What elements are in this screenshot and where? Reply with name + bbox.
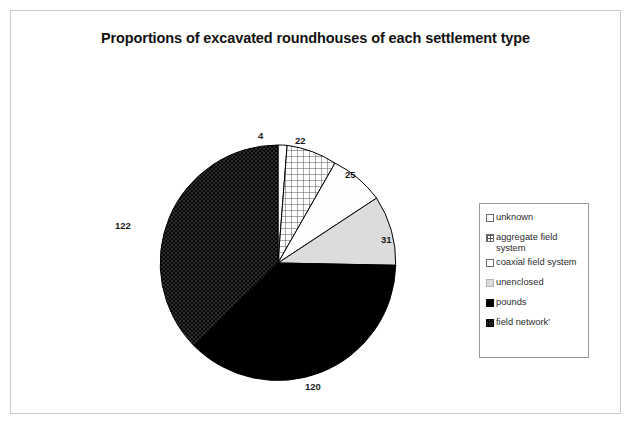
legend-label-field-network: field network' — [496, 317, 550, 328]
textured-black-square-icon — [486, 319, 494, 327]
legend-item-coaxial-field-system: coaxial field system — [486, 257, 584, 268]
pie-svg — [159, 144, 397, 382]
legend-label-coaxial-field-system: coaxial field system — [496, 257, 577, 268]
legend-item-unknown: unknown — [486, 212, 584, 223]
chart-title: Proportions of excavated roundhouses of … — [11, 30, 620, 46]
legend-label-aggregate-field-system: aggregate field system — [496, 232, 584, 254]
legend-item-unenclosed: unenclosed — [486, 277, 584, 288]
pie-slices — [160, 145, 396, 381]
pie-label-pounds: 120 — [305, 381, 321, 392]
pie-label-aggregate-field-system: 22 — [295, 135, 306, 146]
gray-square-icon — [486, 279, 494, 287]
legend-item-aggregate-field-system: aggregate field system — [486, 232, 584, 254]
pie-label-unknown: 4 — [258, 130, 263, 141]
chart-frame: Proportions of excavated roundhouses of … — [10, 10, 621, 414]
empty-square-icon — [486, 214, 494, 222]
pie-label-field-network: 122 — [115, 220, 131, 231]
pie-label-unenclosed: 31 — [381, 234, 392, 245]
crosshatch-square-icon — [486, 234, 494, 242]
chart-legend: unknown aggregate field system coaxial f… — [479, 203, 589, 358]
legend-item-field-network: field network' — [486, 317, 584, 328]
legend-label-unenclosed: unenclosed — [496, 277, 544, 288]
black-square-icon — [486, 299, 494, 307]
legend-label-unknown: unknown — [496, 212, 533, 223]
pie-label-coaxial-field-system: 25 — [345, 169, 356, 180]
pie-chart: 4 22 25 31 120 122 — [159, 144, 397, 382]
empty-square-icon — [486, 259, 494, 267]
legend-item-pounds: pounds — [486, 297, 584, 308]
legend-label-pounds: pounds — [496, 297, 527, 308]
